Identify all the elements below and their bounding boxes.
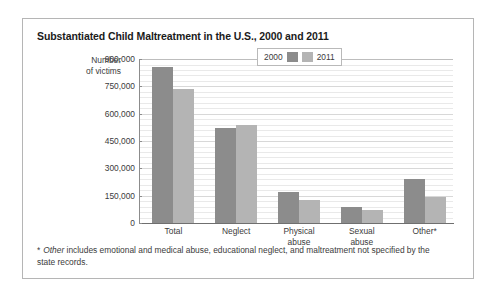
bar-group xyxy=(404,59,446,223)
chart-legend: 2000 2011 xyxy=(257,48,342,66)
y-axis-tick-label: 0 xyxy=(75,218,135,228)
y-axis-tick-label: 600,000 xyxy=(75,109,135,119)
bar-2000-neglect xyxy=(215,128,236,223)
bar-group xyxy=(152,59,194,223)
bar-2011-other xyxy=(425,197,446,223)
bar-2000-total xyxy=(152,67,173,223)
bar-group xyxy=(278,59,320,223)
y-axis-tick-label: 300,000 xyxy=(75,163,135,173)
footnote-marker: * xyxy=(37,245,40,255)
bar-2011-neglect xyxy=(236,125,257,223)
footnote-italic-term: Other xyxy=(43,245,64,255)
bar-2011-sexual-abuse xyxy=(362,210,383,223)
page-title: Substantiated Child Maltreatment in the … xyxy=(37,30,329,42)
legend-label-2011: 2011 xyxy=(317,52,335,62)
legend-swatch-2000 xyxy=(287,52,298,62)
legend-label-2000: 2000 xyxy=(264,52,283,62)
screenshot-root: Substantiated Child Maltreatment in the … xyxy=(0,0,497,301)
x-axis-label: Other* xyxy=(387,226,463,237)
bar-2000-physical-abuse xyxy=(278,192,299,223)
bar-2011-total xyxy=(173,89,194,223)
y-axis-tick-label: 900,000 xyxy=(75,54,135,64)
footnote: *Other includes emotional and medical ab… xyxy=(37,245,437,268)
bar-2011-physical-abuse xyxy=(299,200,320,223)
y-axis-tick-label: 150,000 xyxy=(75,191,135,201)
y-axis-tick-labels: 0150,000300,000450,000600,000750,000900,… xyxy=(73,59,135,223)
bar-2000-other xyxy=(404,179,425,223)
legend-swatch-2011 xyxy=(302,52,313,62)
y-axis-tick-label: 750,000 xyxy=(75,81,135,91)
chart-bars xyxy=(139,59,453,223)
y-axis-tick-mark xyxy=(139,223,142,224)
y-axis-tick-label: 450,000 xyxy=(75,136,135,146)
x-axis-label-line: Other* xyxy=(387,226,463,237)
bar-group xyxy=(341,59,383,223)
footnote-text: includes emotional and medical abuse, ed… xyxy=(37,245,430,267)
bar-2000-sexual-abuse xyxy=(341,207,362,223)
bar-group xyxy=(215,59,257,223)
x-axis-line xyxy=(139,223,454,224)
chart-card: Substantiated Child Maltreatment in the … xyxy=(22,18,474,279)
